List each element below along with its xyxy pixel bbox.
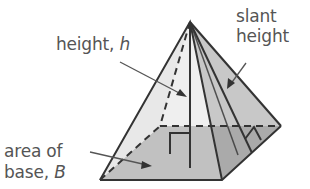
- square-pyramid-diagram: height, h slant height area of base, B: [0, 0, 310, 189]
- height-label-text: height,: [56, 34, 119, 54]
- base-area-label-line2: base, B: [4, 162, 66, 182]
- base-area-label-line1: area of: [4, 141, 62, 161]
- slant-height-label-line1: slant: [236, 6, 276, 26]
- height-variable: h: [119, 34, 130, 54]
- slant-height-label-line2: height: [236, 26, 289, 46]
- height-label: height, h: [56, 34, 130, 54]
- base-area-label-text: base,: [4, 162, 54, 182]
- base-area-variable: B: [54, 162, 65, 182]
